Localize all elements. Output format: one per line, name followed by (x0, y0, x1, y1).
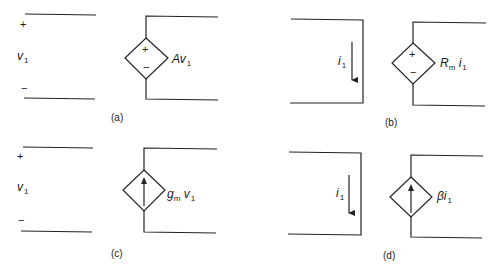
minus-sign: − (21, 82, 27, 94)
dependent-voltage-source-a: + − Av1 (125, 16, 218, 100)
control-port-b: i1 (290, 19, 363, 103)
source-gain-label: Rm i1 (440, 56, 467, 72)
control-port-c: + v1 − (17, 147, 93, 232)
dependent-sources-figure: + v1 − + − Av1 (a) i1 + − Rm i1 (b) (0, 0, 500, 267)
wire-bottom (144, 211, 216, 233)
terminal-top-line (25, 14, 96, 15)
control-current-label: i1 (338, 54, 347, 70)
dependent-current-source-d: βi1 (390, 155, 483, 238)
source-gain-label: gm v1 (167, 187, 196, 203)
wire-bottom (146, 79, 218, 100)
panel-b: i1 + − Rm i1 (b) (290, 19, 486, 128)
source-gain-label: Av1 (171, 52, 192, 68)
plus-sign: + (20, 18, 26, 30)
wire-top (413, 22, 486, 43)
minus-sign: − (18, 214, 24, 226)
control-current-label: i1 (336, 186, 345, 202)
control-port-a: + v1 − (17, 14, 96, 99)
panel-a: + v1 − + − Av1 (a) (17, 14, 218, 123)
wire-bottom (413, 84, 485, 106)
wire-top (411, 155, 483, 177)
panel-caption-c: (c) (111, 248, 123, 259)
wire-bottom (411, 217, 482, 238)
source-plus-sign: + (409, 48, 415, 60)
wire-top (146, 16, 218, 38)
arrowhead-icon (408, 184, 414, 191)
arrowhead-icon (141, 177, 147, 184)
wire-top (144, 148, 217, 170)
source-minus-sign: − (410, 66, 416, 78)
source-minus-sign: − (143, 61, 149, 73)
control-voltage-label: v1 (17, 180, 29, 196)
panel-c: + v1 − gm v1 (c) (17, 147, 217, 259)
source-gain-label: βi1 (436, 189, 453, 205)
control-voltage-label: v1 (17, 49, 29, 65)
terminal-top-line (23, 147, 93, 148)
terminal-bottom-line (24, 98, 95, 99)
terminal-bottom-line (21, 231, 92, 232)
source-plus-sign: + (142, 43, 148, 55)
panel-d: i1 βi1 (d) (288, 152, 483, 261)
panel-caption-d: (d) (383, 250, 395, 261)
plus-sign: + (17, 150, 23, 162)
control-port-d: i1 (288, 152, 361, 235)
panel-caption-b: (b) (385, 117, 397, 128)
dependent-voltage-source-b: + − Rm i1 (392, 22, 486, 106)
panel-caption-a: (a) (111, 112, 123, 123)
dependent-current-source-c: gm v1 (123, 148, 217, 233)
short-circuit-wire (288, 152, 361, 235)
